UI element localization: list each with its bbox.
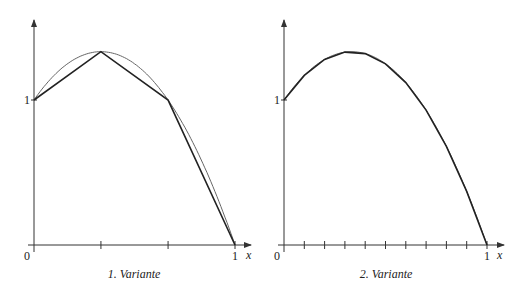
x-axis-label: x xyxy=(245,248,252,262)
x-ticks xyxy=(281,100,487,249)
polygon-approximation xyxy=(34,52,235,245)
x-ticks xyxy=(31,100,235,249)
caption: 2. Variante xyxy=(360,267,413,281)
origin-label: 0 xyxy=(274,249,280,263)
x-one-label: 1 xyxy=(232,249,238,263)
chart-variant-2: 0 1 x 1 2. Variante xyxy=(274,20,504,281)
x-axis-label: x xyxy=(496,248,503,262)
figure: 0 1 x 1 1. Variante 0 1 x 1 2. Variante xyxy=(0,0,525,292)
origin-label: 0 xyxy=(24,249,30,263)
caption: 1. Variante xyxy=(108,267,161,281)
y-one-label: 1 xyxy=(24,93,30,107)
curve xyxy=(34,52,235,245)
chart-variant-1: 0 1 x 1 1. Variante xyxy=(24,20,252,281)
x-one-label: 1 xyxy=(484,249,490,263)
y-one-label: 1 xyxy=(274,93,280,107)
polygon-approximation xyxy=(284,52,487,245)
curve xyxy=(284,52,487,245)
